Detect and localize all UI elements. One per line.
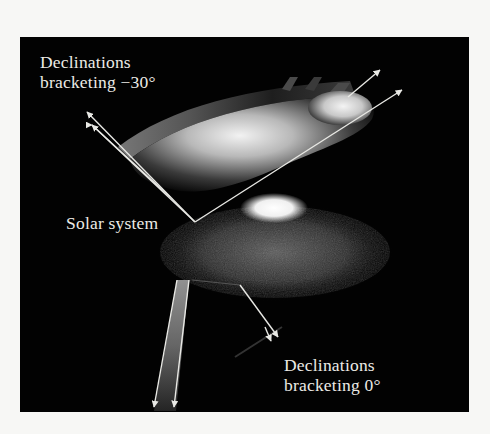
label-solar-system: Solar system: [66, 213, 158, 233]
figure-panel: Declinations bracketing −30° Solar syste…: [20, 37, 469, 412]
galaxy-disk: [155, 193, 395, 302]
label-line-2: bracketing −30°: [40, 72, 156, 92]
label-line-1: Declinations: [40, 52, 156, 72]
solar-system-text: Solar system: [66, 213, 158, 233]
label-line-1: Declinations: [284, 355, 381, 375]
label-line-2: bracketing 0°: [284, 375, 381, 395]
label-declinations-0: Declinations bracketing 0°: [284, 355, 381, 395]
label-declinations-minus-30: Declinations bracketing −30°: [40, 52, 156, 92]
